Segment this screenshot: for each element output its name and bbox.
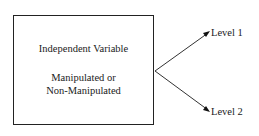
arrow-to-level-1 <box>155 31 210 71</box>
level-2-label: Level 2 <box>211 106 243 118</box>
arrow-to-level-2 <box>155 71 210 112</box>
level-1-label: Level 1 <box>211 27 243 39</box>
